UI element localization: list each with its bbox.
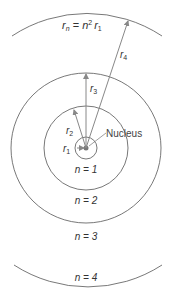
orbit-label-n1: n = 1 [75,164,98,175]
nucleus-pointer [89,133,106,146]
r4-label: r4 [120,49,127,61]
orbit-label-n3: n = 3 [75,231,98,242]
r2-arrow [74,110,86,148]
orbit-label-n2: n = 2 [75,195,98,206]
orbit-label-n4: n = 4 [75,272,98,283]
r1-label: r1 [63,143,70,155]
formula: rn = n2r1 [62,19,102,32]
bohr-orbits-diagram: rn = n2r1 r1 r2 r3 r4 Nucleus n = 1 n = … [0,0,171,294]
r3-label: r3 [90,83,97,95]
nucleus-label: Nucleus [106,128,142,139]
r2-label: r2 [66,125,73,137]
